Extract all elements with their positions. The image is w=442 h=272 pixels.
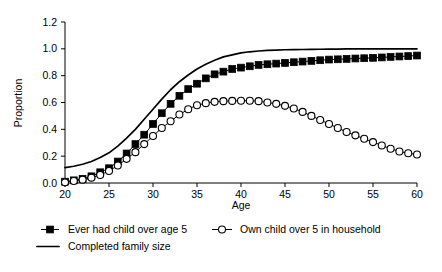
data-point-marker [194, 80, 201, 87]
legend-item[interactable]: Ever had child over age 5 [41, 223, 187, 235]
data-point-marker [317, 57, 324, 64]
data-point-marker [114, 162, 121, 169]
data-point-marker [246, 97, 253, 104]
data-point-marker [378, 142, 385, 149]
data-point-marker [62, 179, 69, 186]
data-point-marker [299, 58, 306, 65]
data-point-marker [396, 53, 403, 60]
y-tick-label: 1.2 [42, 16, 57, 28]
data-point-marker [299, 108, 306, 115]
x-tick-label: 60 [411, 188, 423, 200]
series-2 [62, 97, 421, 186]
data-point-marker [106, 167, 113, 174]
y-axis-tick-labels: 0.00.20.40.60.81.01.2 [42, 16, 57, 189]
data-point-marker [414, 52, 421, 59]
data-point-marker [290, 59, 297, 66]
data-point-marker [282, 102, 289, 109]
data-point-marker [167, 118, 174, 125]
chart-container: 0.00.20.40.60.81.01.2 202530354045505560… [0, 0, 442, 272]
data-point-marker [405, 53, 412, 60]
data-point-marker [220, 98, 227, 105]
data-point-marker [229, 66, 236, 73]
data-point-marker [405, 150, 412, 157]
data-point-marker [185, 106, 192, 113]
y-tick-label: 0.4 [42, 123, 57, 135]
data-point-marker [70, 177, 77, 184]
data-point-marker [264, 99, 271, 106]
x-tick-label: 35 [191, 188, 203, 200]
data-point-marker [202, 75, 209, 82]
data-point-marker [150, 121, 157, 128]
data-point-marker [290, 105, 297, 112]
data-point-marker [88, 174, 95, 181]
legend-label: Completed family size [68, 240, 171, 252]
x-tick-label: 45 [279, 188, 291, 200]
data-point-marker [141, 141, 148, 148]
data-point-marker [343, 56, 350, 63]
data-point-marker [352, 132, 359, 139]
y-tick-label: 0.8 [42, 69, 57, 81]
data-point-marker [264, 61, 271, 68]
data-point-marker [255, 62, 262, 69]
data-point-marker [326, 56, 333, 63]
x-tick-label: 25 [103, 188, 115, 200]
data-point-marker [97, 171, 104, 178]
data-point-marker [326, 120, 333, 127]
data-point-marker [202, 100, 209, 107]
data-point-marker [176, 111, 183, 118]
legend-item[interactable]: Own child over 5 in household [212, 223, 381, 235]
x-tick-label: 55 [367, 188, 379, 200]
y-tick-label: 0.0 [42, 177, 57, 189]
data-point-marker [158, 124, 165, 131]
x-tick-label: 50 [323, 188, 335, 200]
x-tick-label: 20 [59, 188, 71, 200]
data-point-marker [361, 55, 368, 62]
y-axis-ticks [61, 22, 65, 183]
data-point-marker [132, 141, 139, 148]
x-axis-ticks [65, 183, 417, 187]
data-point-marker [211, 98, 218, 105]
x-tick-label: 30 [147, 188, 159, 200]
legend-label: Ever had child over age 5 [68, 223, 187, 235]
data-point-marker [246, 63, 253, 70]
data-point-marker [158, 110, 165, 117]
data-series-layer [62, 49, 421, 186]
data-point-marker [378, 54, 385, 61]
data-point-marker [123, 155, 130, 162]
data-point-marker [387, 53, 394, 60]
data-point-marker [370, 54, 377, 61]
data-point-marker [387, 145, 394, 152]
data-point-marker [79, 176, 86, 183]
y-tick-label: 1.0 [42, 42, 57, 54]
y-axis-title: Proportion [12, 79, 24, 128]
data-point-marker [334, 56, 341, 63]
data-point-marker [132, 149, 139, 156]
data-point-marker [194, 102, 201, 109]
data-point-marker [317, 116, 324, 123]
data-point-marker [308, 112, 315, 119]
data-point-marker [167, 100, 174, 107]
legend-marker-square [47, 226, 54, 233]
data-point-marker [176, 92, 183, 99]
legend-item[interactable]: Completed family size [37, 240, 171, 252]
x-axis-title: Age [232, 199, 251, 211]
data-point-marker [414, 151, 421, 158]
legend-marker-circle [219, 226, 226, 233]
data-point-marker [308, 58, 315, 65]
data-point-marker [352, 55, 359, 62]
data-point-marker [361, 135, 368, 142]
chart-svg: 0.00.20.40.60.81.01.2 202530354045505560… [0, 0, 442, 272]
data-point-marker [282, 60, 289, 67]
y-tick-label: 0.6 [42, 96, 57, 108]
data-point-marker [273, 60, 280, 67]
data-point-marker [238, 64, 245, 71]
data-point-marker [370, 139, 377, 146]
data-point-marker [150, 133, 157, 140]
data-point-marker [273, 100, 280, 107]
data-point-marker [211, 71, 218, 78]
data-point-marker [185, 86, 192, 93]
data-point-marker [238, 97, 245, 104]
data-point-marker [255, 98, 262, 105]
data-point-marker [220, 68, 227, 75]
data-point-marker [141, 131, 148, 138]
